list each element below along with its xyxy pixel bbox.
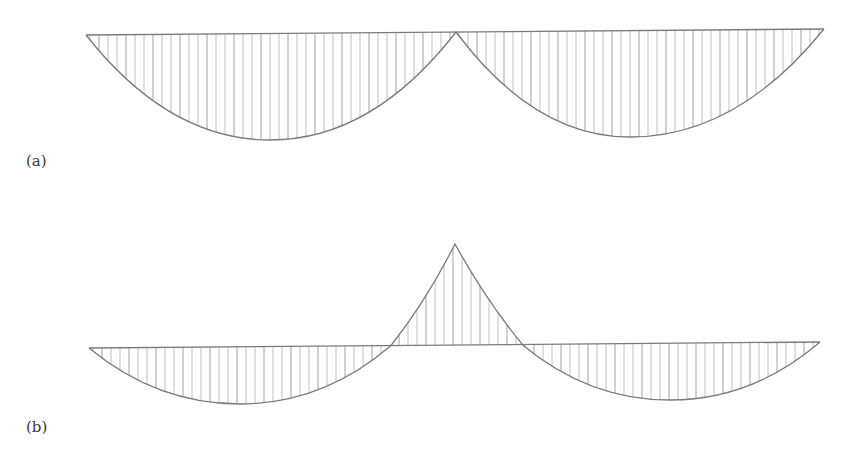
panel-b-diagram [89, 235, 820, 415]
panel-a-curve [86, 29, 824, 140]
panel-b-baseline [89, 342, 820, 348]
panel-b-curve [89, 244, 820, 404]
panel-a-diagram [86, 20, 824, 150]
panel-a-hatching [90, 20, 819, 150]
moment-diagram [0, 0, 857, 463]
panel-b-hatching [93, 235, 813, 415]
